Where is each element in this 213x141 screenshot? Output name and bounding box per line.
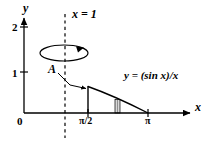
- representative-strip: [115, 100, 120, 114]
- x-axis-label: x: [195, 101, 201, 113]
- curve-equation-label: y = (sin x)/x: [124, 70, 178, 81]
- region-a-leader-line: [58, 73, 86, 89]
- y-tick-label-2: 2: [12, 22, 18, 33]
- region-a-label: A: [48, 63, 56, 75]
- x-tick-label-pi-half: π/2: [79, 116, 92, 126]
- x-tick-label-pi: π: [145, 116, 150, 126]
- figure-canvas: [0, 0, 213, 141]
- rotation-direction-arrow-icon: [76, 46, 84, 52]
- rotation-axis-label: x = 1: [72, 8, 97, 20]
- solid-of-revolution-figure: y x 2 1 0 π/2 π x = 1 A y = (sin x)/x: [0, 0, 213, 141]
- y-axis-label: y: [23, 2, 28, 14]
- origin-label: 0: [17, 116, 23, 127]
- y-tick-label-1: 1: [12, 68, 18, 79]
